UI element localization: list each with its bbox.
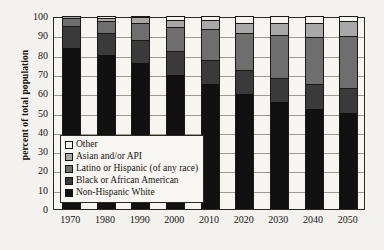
bar-segment-1990-1 bbox=[131, 40, 150, 63]
bar-segment-2040-0 bbox=[305, 109, 324, 209]
bar-segment-2000-4 bbox=[166, 16, 185, 20]
bar-2030 bbox=[270, 16, 289, 209]
legend-swatch-icon bbox=[65, 177, 73, 185]
legend: OtherAsian and/or APILatino or Hispanic … bbox=[60, 135, 204, 203]
legend-label: Other bbox=[76, 140, 98, 150]
bar-segment-2050-2 bbox=[339, 36, 358, 87]
y-tick-label: 20 bbox=[20, 166, 48, 176]
bar-segment-2000-1 bbox=[166, 51, 185, 75]
legend-swatch-icon bbox=[65, 189, 73, 197]
y-tick-label: 70 bbox=[20, 70, 48, 80]
bar-segment-2010-3 bbox=[201, 20, 220, 29]
bar-segment-2050-4 bbox=[339, 16, 358, 21]
y-axis-title: percent of total population bbox=[20, 20, 30, 190]
y-tick-label: 10 bbox=[20, 186, 48, 196]
legend-label: Black or African American bbox=[76, 176, 179, 186]
y-tick-label: 100 bbox=[20, 12, 48, 22]
bar-segment-2020-4 bbox=[235, 16, 254, 23]
y-tick-label: 60 bbox=[20, 89, 48, 99]
bar-segment-1980-4 bbox=[97, 16, 116, 18]
y-tick-label: 80 bbox=[20, 51, 48, 61]
bar-segment-2030-3 bbox=[270, 23, 289, 36]
bar-segment-2040-4 bbox=[305, 16, 324, 23]
legend-swatch-icon bbox=[65, 153, 73, 161]
y-tick-label: 90 bbox=[20, 31, 48, 41]
y-tick-label: 50 bbox=[20, 109, 48, 119]
y-tick-label: 0 bbox=[20, 205, 48, 215]
bar-segment-2010-1 bbox=[201, 60, 220, 84]
bar-segment-2010-2 bbox=[201, 29, 220, 60]
bar-segment-2020-0 bbox=[235, 94, 254, 209]
bar-segment-1970-3 bbox=[62, 16, 81, 18]
y-tick-label: 40 bbox=[20, 128, 48, 138]
bar-segment-2030-2 bbox=[270, 35, 289, 77]
bar-segment-2020-2 bbox=[235, 33, 254, 69]
x-tick-label: 2050 bbox=[327, 214, 369, 225]
bar-segment-2030-1 bbox=[270, 78, 289, 102]
y-tick-label: 30 bbox=[20, 147, 48, 157]
stacked-bar-chart: percent of total population 100908070605… bbox=[0, 0, 384, 250]
legend-item[interactable]: Non-Hispanic White bbox=[65, 187, 198, 199]
bar-segment-2020-3 bbox=[235, 23, 254, 34]
legend-item[interactable]: Asian and/or API bbox=[65, 151, 198, 163]
bar-segment-2010-4 bbox=[201, 16, 220, 20]
bar-segment-2040-1 bbox=[305, 84, 324, 109]
legend-swatch-icon bbox=[65, 165, 73, 173]
bar-segment-1980-2 bbox=[97, 21, 116, 33]
legend-item[interactable]: Black or African American bbox=[65, 175, 198, 187]
bar-segment-1970-2 bbox=[62, 18, 81, 27]
bar-segment-2020-1 bbox=[235, 70, 254, 94]
bar-2020 bbox=[235, 16, 254, 209]
legend-label: Latino or Hispanic (of any race) bbox=[76, 164, 198, 174]
bar-segment-2040-3 bbox=[305, 23, 324, 37]
bar-segment-1990-4 bbox=[131, 16, 150, 17]
bar-2040 bbox=[305, 16, 324, 209]
bar-segment-2050-3 bbox=[339, 21, 358, 36]
bar-segment-2040-2 bbox=[305, 37, 324, 84]
bar-segment-1990-3 bbox=[131, 17, 150, 22]
bar-2050 bbox=[339, 16, 358, 209]
legend-label: Non-Hispanic White bbox=[76, 188, 155, 198]
bar-segment-2000-3 bbox=[166, 20, 185, 27]
bar-segment-1980-1 bbox=[97, 33, 116, 55]
legend-label: Asian and/or API bbox=[76, 152, 142, 162]
bar-segment-2030-4 bbox=[270, 16, 289, 23]
bar-segment-1970-1 bbox=[62, 26, 81, 47]
bar-segment-2050-1 bbox=[339, 88, 358, 113]
legend-item[interactable]: Other bbox=[65, 139, 198, 151]
bar-segment-1980-3 bbox=[97, 18, 116, 21]
bar-segment-2030-0 bbox=[270, 102, 289, 209]
legend-item[interactable]: Latino or Hispanic (of any race) bbox=[65, 163, 198, 175]
bar-segment-2000-2 bbox=[166, 27, 185, 51]
legend-swatch-icon bbox=[65, 141, 73, 149]
bar-segment-1990-2 bbox=[131, 23, 150, 40]
bar-segment-2050-0 bbox=[339, 113, 358, 209]
